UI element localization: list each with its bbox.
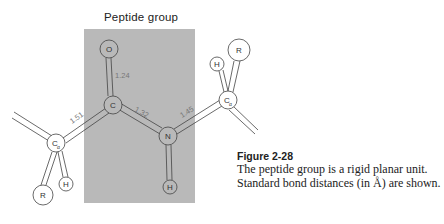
- svg-text:H: H: [63, 180, 69, 189]
- svg-text:α: α: [57, 144, 60, 150]
- bond-length-calpha-c: 1.51: [68, 110, 85, 126]
- svg-text:α: α: [229, 101, 232, 107]
- svg-text:R: R: [40, 191, 46, 200]
- peptide-structure-diagram: C α R H C O N H C α H R 1.51 1.24 1.32 1…: [0, 0, 444, 224]
- svg-text:C: C: [110, 101, 116, 110]
- caption-text: The peptide group is a rigid planar unit…: [237, 163, 442, 190]
- svg-text:H: H: [214, 60, 220, 69]
- figure-caption: Figure 2-28 The peptide group is a rigid…: [237, 150, 442, 190]
- svg-text:N: N: [165, 132, 171, 141]
- svg-text:H: H: [167, 183, 173, 192]
- bond-length-c-o: 1.24: [115, 71, 130, 80]
- svg-text:R: R: [236, 46, 242, 55]
- svg-text:O: O: [106, 45, 112, 54]
